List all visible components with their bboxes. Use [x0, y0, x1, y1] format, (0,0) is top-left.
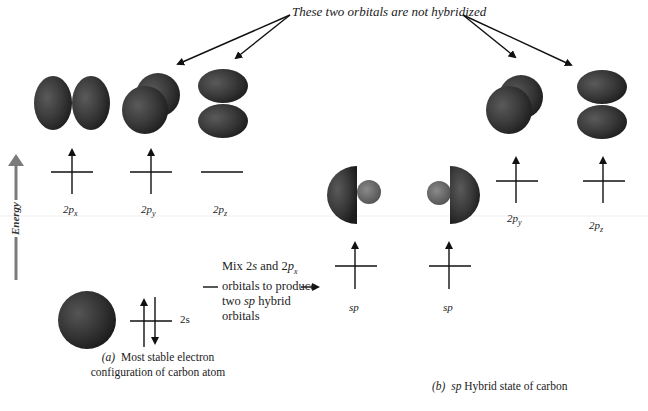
- caption-panel-b: (b) sp Hybrid state of carbon: [432, 379, 567, 394]
- label-sp-2: sp: [443, 301, 453, 313]
- orbital-2s-shape: [58, 291, 116, 349]
- caption-a-line-2: configuration of carbon atom: [78, 365, 238, 380]
- mix-line-2: orbitals to produce: [222, 279, 316, 294]
- mix-line-1: Mix 2s and 2px: [222, 259, 316, 279]
- orbital-2py-unhybridized-shape: [486, 75, 543, 134]
- energy-axis-label: Energy: [9, 202, 21, 235]
- sp-hybrid-orbital-1-shape: [327, 166, 381, 224]
- caption-a-line-1: (a) Most stable electron: [78, 350, 238, 365]
- mix-line-3: two sp hybrid: [222, 294, 316, 309]
- label-sp-1: sp: [349, 301, 359, 313]
- label-sub: y: [152, 209, 156, 218]
- label-main: 2p: [141, 203, 152, 215]
- level-2py-unhybridized: [496, 158, 538, 203]
- level-2py: [130, 150, 172, 194]
- label-main: 2p: [213, 203, 224, 215]
- label-main: 2p: [63, 203, 74, 215]
- label-2py: 2py: [141, 203, 156, 218]
- label-2pz-unhybridized: 2pz: [589, 219, 603, 234]
- orbital-2py-shape: [122, 73, 180, 134]
- label-2px: 2px: [63, 203, 78, 218]
- level-2s: [130, 297, 172, 347]
- callout-not-hybridized: These two orbitals are not hybridized: [292, 4, 486, 20]
- level-sp-1: [335, 243, 377, 289]
- level-2pz-unhybridized: [583, 158, 625, 203]
- mix-orbitals-text: Mix 2s and 2px orbitals to produce two s…: [222, 259, 316, 324]
- level-sp-2: [429, 243, 471, 289]
- label-sub: x: [74, 209, 78, 218]
- label-sub: z: [224, 209, 227, 218]
- level-2px: [51, 150, 93, 194]
- label-2pz: 2pz: [213, 203, 227, 218]
- mix-line-4: orbitals: [222, 309, 316, 324]
- orbital-2pz-unhybridized-shape: [577, 70, 627, 139]
- callout-arrows: [178, 15, 571, 65]
- sp-hybrid-orbital-2-shape: [427, 166, 480, 224]
- label-2py-unhybridized: 2py: [507, 212, 522, 227]
- caption-panel-a: (a) Most stable electron configuration o…: [78, 350, 238, 380]
- label-2s: 2s: [180, 313, 190, 325]
- orbital-2pz-shape: [198, 69, 248, 138]
- orbital-2px-shape: [34, 76, 110, 130]
